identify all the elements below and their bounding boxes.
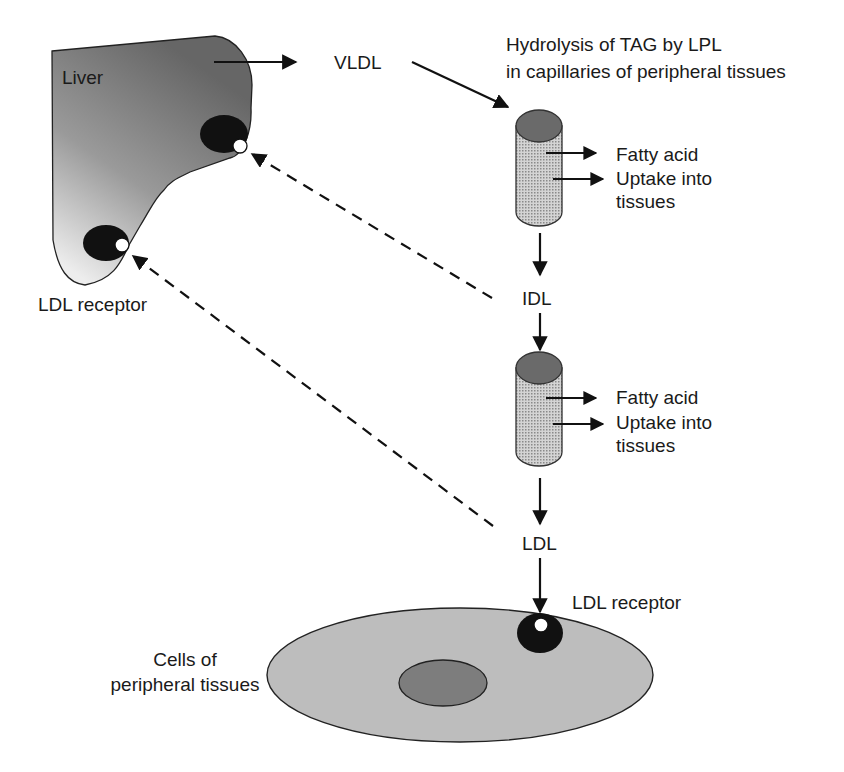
- dashed-arrow-ldl-to-liver: [133, 256, 493, 526]
- liver-ldl-receptor-label: LDL receptor: [38, 294, 148, 315]
- capillary-1-top: [516, 110, 562, 142]
- peripheral-receptor-site: [534, 618, 548, 632]
- capillary-2: [516, 352, 562, 466]
- liver-label: Liver: [62, 67, 104, 88]
- capillary2-uptake-label-line2: tissues: [616, 435, 675, 456]
- liver-receptor-lower-site: [115, 238, 129, 252]
- lipoprotein-diagram: Liver LDL receptor VLDL Hydrolysis of TA…: [0, 0, 844, 772]
- peripheral-cell-nucleus: [399, 660, 487, 706]
- capillary1-uptake-label-line1: Uptake into: [616, 168, 712, 189]
- ldl-label: LDL: [522, 533, 557, 554]
- capillary1-uptake-label-line2: tissues: [616, 191, 675, 212]
- arrow-vldl-to-capillary: [412, 62, 508, 107]
- capillary-2-top: [516, 352, 562, 384]
- capillary-1: [516, 110, 562, 226]
- peripheral-ldl-receptor-label: LDL receptor: [572, 592, 682, 613]
- vldl-label: VLDL: [334, 52, 382, 73]
- liver: Liver: [52, 36, 252, 285]
- peripheral-cells-label-line2: peripheral tissues: [111, 674, 260, 695]
- capillary2-uptake-label-line1: Uptake into: [616, 412, 712, 433]
- hydrolysis-label-line2: in capillaries of peripheral tissues: [506, 61, 786, 82]
- liver-receptor-upper-site: [233, 139, 247, 153]
- idl-label: IDL: [522, 288, 552, 309]
- hydrolysis-label-line1: Hydrolysis of TAG by LPL: [506, 34, 722, 55]
- capillary1-fatty-acid-label: Fatty acid: [616, 144, 698, 165]
- peripheral-cells-label-line1: Cells of: [153, 649, 217, 670]
- capillary2-fatty-acid-label: Fatty acid: [616, 387, 698, 408]
- dashed-arrow-idl-to-liver: [252, 154, 492, 298]
- peripheral-cell: [267, 608, 653, 742]
